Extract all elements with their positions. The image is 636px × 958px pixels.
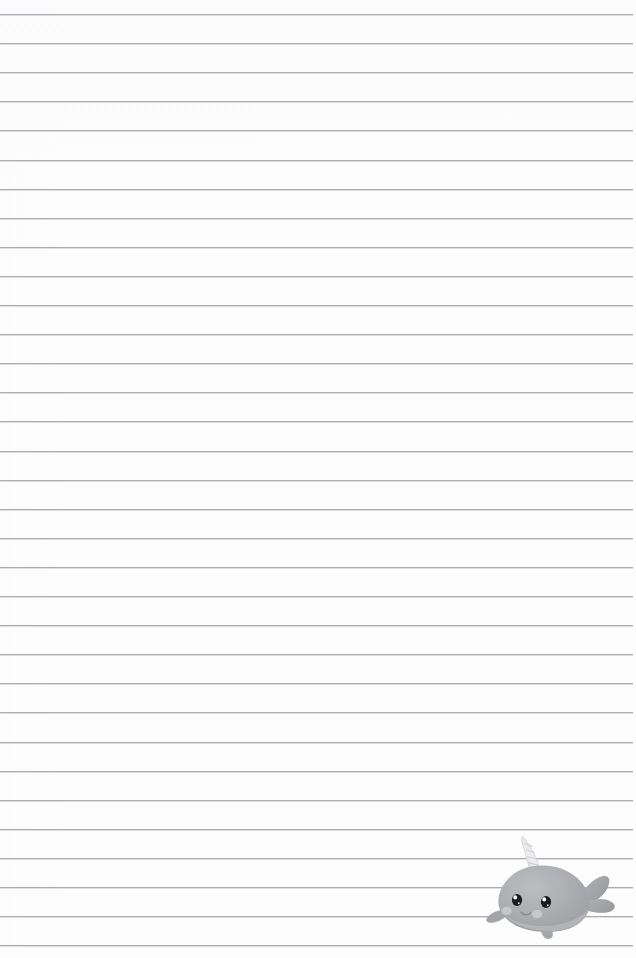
notebook-page (0, 0, 636, 958)
narwhal-left-eye-icon (512, 894, 522, 906)
ruled-line (0, 451, 633, 452)
narwhal-bottom-fin-icon (541, 931, 553, 940)
ruled-line (0, 247, 633, 248)
ruled-line (0, 130, 633, 131)
ruled-line (0, 160, 633, 161)
ruled-line (0, 189, 633, 190)
ruled-line (0, 567, 633, 568)
ruled-line (0, 538, 633, 539)
ruled-line (0, 101, 633, 102)
paper-texture (0, 0, 636, 958)
narwhal-left-cheek-icon (501, 907, 511, 915)
ruled-line (0, 742, 633, 743)
ruled-line (0, 72, 633, 73)
ruled-line (0, 363, 633, 364)
ruled-line (0, 654, 633, 655)
narwhal-horn-icon (521, 837, 538, 868)
ruled-line (0, 712, 633, 713)
ruled-line (0, 800, 633, 801)
narwhal-illustration (483, 832, 619, 942)
ruled-line (0, 596, 633, 597)
ruled-lines-group (0, 0, 636, 958)
ruled-line (0, 625, 633, 626)
ruled-line (0, 392, 633, 393)
narwhal-right-eye-icon (541, 896, 551, 908)
ruled-line (0, 43, 633, 44)
ruled-line (0, 771, 633, 772)
ruled-line (0, 683, 633, 684)
narwhal-right-cheek-icon (532, 910, 542, 918)
ruled-line (0, 276, 633, 277)
ruled-line (0, 509, 633, 510)
ruled-line (0, 14, 633, 15)
ruled-line (0, 218, 633, 219)
ruled-line (0, 334, 633, 335)
ruled-line (0, 305, 633, 306)
ruled-line (0, 945, 633, 946)
ruled-line (0, 829, 633, 830)
ruled-line (0, 480, 633, 481)
ruled-line (0, 421, 633, 422)
